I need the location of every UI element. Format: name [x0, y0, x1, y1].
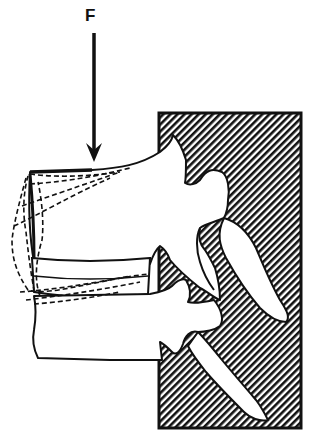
spine-diagram [0, 0, 311, 438]
force-arrow [86, 33, 102, 162]
